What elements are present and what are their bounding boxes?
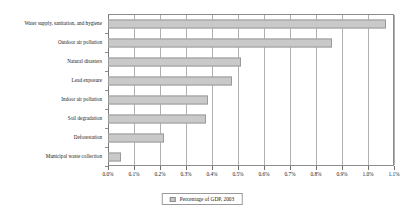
x-tick [394, 166, 395, 170]
x-tick-label: 0.2% [154, 171, 165, 177]
x-tick-label: 0.8% [310, 171, 321, 177]
x-tick-label: 0.1% [128, 171, 139, 177]
gridline [394, 15, 395, 165]
bar [108, 76, 232, 85]
x-tick-label: 0.6% [258, 171, 269, 177]
bar-chart: Water supply, sanitation, and hygieneOut… [0, 0, 404, 214]
x-tick-label: 0.5% [232, 171, 243, 177]
x-tick [238, 166, 239, 170]
bar-row [108, 109, 394, 128]
bar [108, 57, 241, 66]
bar-series [108, 14, 394, 166]
category-label: Municipal waste collection [0, 147, 105, 166]
x-tick-label: 1.0% [362, 171, 373, 177]
bar-row [108, 33, 394, 52]
x-tick-label: 0.7% [284, 171, 295, 177]
bar-row [108, 14, 394, 33]
category-axis: Water supply, sanitation, and hygieneOut… [0, 14, 105, 166]
category-label: Deforestation [0, 128, 105, 147]
bar [108, 19, 386, 28]
x-tick [212, 166, 213, 170]
bar [108, 152, 121, 161]
legend: Percentage of GDP, 2003 [162, 193, 243, 205]
bar-row [108, 90, 394, 109]
x-tick [342, 166, 343, 170]
x-tick [368, 166, 369, 170]
bar [108, 114, 206, 123]
x-tick [160, 166, 161, 170]
x-tick [316, 166, 317, 170]
category-label: Outdoor air pollution [0, 33, 105, 52]
x-tick [290, 166, 291, 170]
x-tick [134, 166, 135, 170]
category-label: Natural disasters [0, 52, 105, 71]
x-tick-label: 1.1% [388, 171, 399, 177]
legend-swatch-icon [170, 197, 176, 202]
legend-label: Percentage of GDP, 2003 [180, 196, 235, 202]
category-label: Lead exposure [0, 71, 105, 90]
bar-row [108, 52, 394, 71]
x-tick [264, 166, 265, 170]
x-axis-labels: 0.0%0.1%0.2%0.3%0.4%0.5%0.6%0.7%0.8%0.9%… [108, 171, 394, 181]
bar-row [108, 147, 394, 166]
x-tick-label: 0.0% [102, 171, 113, 177]
x-tick [108, 166, 109, 170]
category-label: Indoor air pollution [0, 90, 105, 109]
x-tick-label: 0.9% [336, 171, 347, 177]
x-tick [186, 166, 187, 170]
bar [108, 38, 332, 47]
bar [108, 95, 208, 104]
category-label: Soil degradation [0, 109, 105, 128]
bar [108, 133, 164, 142]
category-label: Water supply, sanitation, and hygiene [0, 14, 105, 33]
x-tick-label: 0.3% [180, 171, 191, 177]
x-tick-label: 0.4% [206, 171, 217, 177]
bar-row [108, 128, 394, 147]
bar-row [108, 71, 394, 90]
